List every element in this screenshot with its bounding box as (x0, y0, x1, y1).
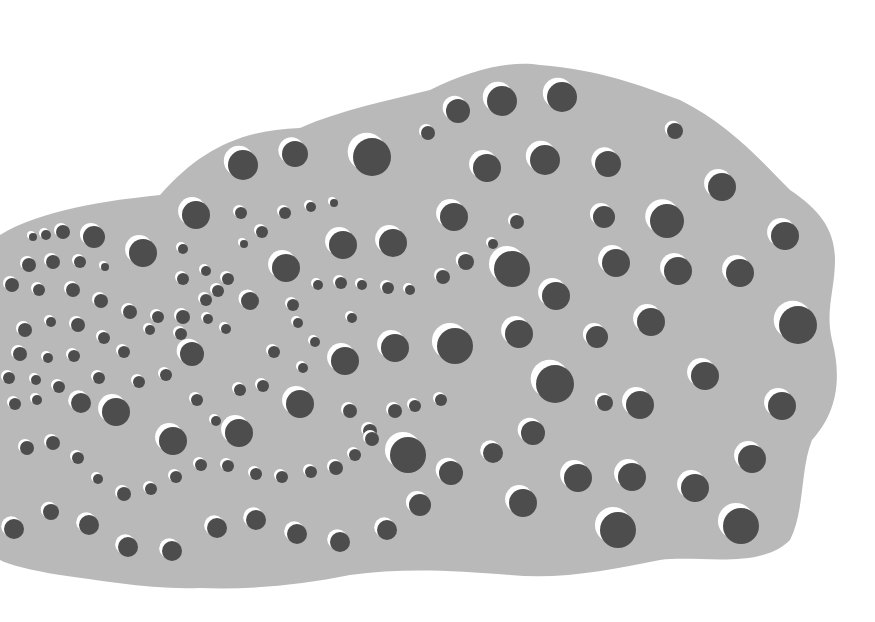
dot (72, 452, 84, 464)
dot (298, 363, 308, 373)
dot (191, 394, 203, 406)
dot (390, 437, 426, 473)
dot (329, 461, 343, 475)
dot (71, 393, 91, 413)
dot (177, 273, 189, 285)
dot (494, 251, 530, 287)
dot (180, 342, 204, 366)
dot (46, 317, 56, 327)
dot (200, 294, 212, 306)
dot (409, 494, 431, 516)
dot (212, 285, 224, 297)
dot (738, 445, 766, 473)
dot (287, 299, 299, 311)
dot (505, 320, 533, 348)
dot (195, 459, 207, 471)
dot (293, 318, 303, 328)
dot (240, 240, 248, 248)
dot (152, 311, 164, 323)
dot (331, 347, 359, 375)
dot (435, 394, 447, 406)
dot (597, 395, 613, 411)
dot (306, 202, 316, 212)
dot (22, 258, 36, 272)
dot (272, 254, 300, 282)
dot (222, 460, 234, 472)
dot (536, 365, 574, 403)
dot (160, 369, 172, 381)
dot (547, 82, 577, 112)
dot (203, 314, 213, 324)
dot (159, 427, 187, 455)
dot (182, 201, 210, 229)
dot (330, 532, 350, 552)
dot (409, 400, 421, 412)
dot (768, 392, 796, 420)
dot (101, 263, 109, 271)
dot (43, 353, 53, 363)
dot (225, 419, 253, 447)
dot (626, 391, 654, 419)
dot (20, 441, 34, 455)
dot (357, 280, 367, 290)
dot (726, 259, 754, 287)
dot (353, 138, 391, 176)
dot (437, 328, 473, 364)
dot (377, 520, 397, 540)
dot (388, 404, 402, 418)
dot (145, 483, 157, 495)
dot (5, 278, 19, 292)
dot (18, 323, 32, 337)
dot (708, 173, 736, 201)
dot (330, 199, 338, 207)
dot (32, 395, 42, 405)
dot (421, 126, 435, 140)
dot (691, 362, 719, 390)
dot (510, 215, 524, 229)
dot (207, 518, 227, 538)
dot (256, 226, 268, 238)
dot (235, 207, 247, 219)
dot (509, 489, 537, 517)
dot (723, 508, 759, 544)
dot (31, 375, 41, 385)
dot (117, 487, 131, 501)
dot (771, 222, 799, 250)
dot (521, 421, 545, 445)
dot (123, 305, 137, 319)
dot (618, 463, 646, 491)
dot (595, 151, 621, 177)
dot (3, 372, 15, 384)
dot (379, 229, 407, 257)
dot (488, 239, 498, 249)
dot (405, 285, 415, 295)
dot (68, 350, 80, 362)
dot (487, 86, 517, 116)
dot (436, 270, 450, 284)
dot (593, 206, 615, 228)
dot (234, 384, 246, 396)
dot (129, 239, 157, 267)
dot (13, 347, 27, 361)
dot (133, 376, 145, 388)
dot (162, 541, 182, 561)
dot (586, 326, 608, 348)
dot (637, 308, 665, 336)
dot (600, 512, 636, 548)
dot (221, 324, 231, 334)
dot (71, 318, 85, 332)
dot (335, 277, 347, 289)
dot (279, 207, 291, 219)
dot (56, 225, 70, 239)
dot (542, 282, 570, 310)
dot (329, 231, 357, 259)
dot (667, 123, 683, 139)
dot (29, 233, 37, 241)
dot (4, 519, 24, 539)
dot (257, 380, 269, 392)
dot (313, 280, 323, 290)
dot (118, 346, 130, 358)
dot (176, 310, 190, 324)
dot (102, 398, 130, 426)
dot (241, 292, 259, 310)
